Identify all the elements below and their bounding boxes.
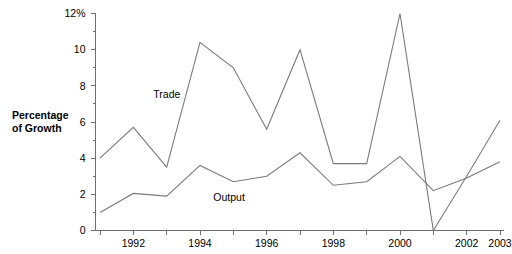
y-tick-label: 2 [80,188,86,200]
x-tick-label: 1996 [255,237,279,249]
y-tick-label: 6 [80,116,86,128]
series-annotation-output: Output [213,191,245,203]
series-line-output [100,153,500,213]
x-tick-label: 1992 [122,237,146,249]
series-lines [100,14,500,231]
series-line-trade [100,14,500,231]
x-tick-label: 2003 [488,237,512,249]
x-axis: 1992199419961998200020022003 [96,231,512,250]
x-tick-label: 1994 [188,237,212,249]
y-tick-label: 10 [74,43,86,55]
y-tick-label: 12% [64,7,85,19]
series-annotations: TradeOutput [153,88,245,203]
x-tick-label: 2000 [388,237,412,249]
y-tick-label: 8 [80,80,86,92]
y-tick-label: 4 [80,152,86,164]
chart-plot-area: 024681012% 1992199419961998200020022003 … [0,0,512,254]
x-tick-label: 1998 [322,237,346,249]
y-axis: 024681012% [64,7,95,236]
series-annotation-trade: Trade [153,88,180,100]
y-tick-label: 0 [80,224,86,236]
x-tick-label: 2002 [455,237,479,249]
growth-line-chart: Percentage of Growth 024681012% 19921994… [0,0,512,254]
